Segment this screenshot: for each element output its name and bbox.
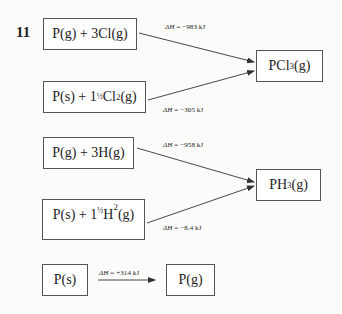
- label-prefix: P(s) + 1: [52, 89, 96, 105]
- enthalpy-label-pg-to-ph3: ΔH = −958 kJ: [163, 141, 203, 149]
- label-suffix: (g): [292, 177, 308, 193]
- arrow-pg-to-pcl3: [139, 33, 254, 62]
- box-pg: P(g): [166, 264, 215, 296]
- value: = −983 kJ: [176, 23, 205, 31]
- box-pg-plus-3hg: P(g) + 3H(g): [43, 137, 134, 169]
- box-ps-plus-h2: P(s) + 1½H2(g): [42, 199, 145, 240]
- box-ps-plus-cl2: P(s) + 1½Cl2(g): [43, 81, 146, 113]
- value: = +314 kJ: [110, 269, 139, 277]
- label: P(g): [178, 272, 202, 288]
- enthalpy-label-ps-to-pg: ΔH = +314 kJ: [99, 269, 139, 277]
- arrow-ps-to-ph3: [147, 186, 254, 223]
- delta-h-symbol: ΔH: [163, 141, 172, 149]
- label: P(g) + 3Cl(g): [52, 26, 128, 42]
- enthalpy-label-ps-to-ph3: ΔH = −8.4 kJ: [163, 224, 202, 232]
- arrow-pg-to-ph3: [137, 148, 254, 182]
- box-ps: P(s): [42, 264, 88, 296]
- value: = −8.4 kJ: [174, 224, 201, 232]
- enthalpy-label-ps-to-pcl3: ΔH = −305 kJ: [163, 106, 203, 114]
- box-pg-plus-3clg: P(g) + 3Cl(g): [43, 18, 137, 50]
- enthalpy-label-pg-to-pcl3: ΔH = −983 kJ: [165, 23, 205, 31]
- label-mid: H: [103, 207, 113, 223]
- value: = −305 kJ: [174, 106, 203, 114]
- label-suffix: (g): [294, 58, 310, 74]
- delta-h-symbol: ΔH: [163, 224, 172, 232]
- box-pcl3: PCl3(g): [256, 50, 323, 82]
- label-suffix: (g): [120, 89, 136, 105]
- delta-h-symbol: ΔH: [165, 23, 174, 31]
- label: P(s): [54, 272, 77, 288]
- value: = −958 kJ: [174, 141, 203, 149]
- label: P(g) + 3H(g): [52, 145, 124, 161]
- label-mid: Cl: [103, 89, 116, 105]
- label-prefix: PH: [269, 177, 287, 193]
- arrow-ps-to-pcl3: [148, 71, 254, 100]
- label-prefix: PCl: [269, 58, 290, 74]
- delta-h-symbol: ΔH: [99, 269, 108, 277]
- box-ph3: PH3(g): [256, 169, 321, 201]
- label-prefix: P(s) + 1: [53, 207, 97, 223]
- delta-h-symbol: ΔH: [163, 106, 172, 114]
- label-suffix: (g): [118, 207, 134, 223]
